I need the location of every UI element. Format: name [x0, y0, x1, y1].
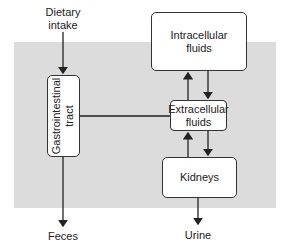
intake-label-line2: intake	[33, 19, 93, 32]
intracellular-line1: Intracellular	[171, 29, 228, 42]
gastrointestinal-tract-node: Gastrointestinal tract	[47, 75, 80, 157]
dietary-intake-label: Dietary intake	[33, 6, 93, 32]
kidneys-node: Kidneys	[162, 157, 237, 198]
intracellular-line2: fluids	[171, 42, 228, 55]
dietary-label-line1: Dietary	[33, 6, 93, 19]
urine-label: Urine	[173, 229, 223, 242]
extracellular-fluids-node: Extracellular fluids	[170, 100, 227, 131]
kidneys-text: Kidneys	[180, 171, 219, 184]
gi-line2: tract	[64, 78, 77, 154]
feces-label: Feces	[38, 230, 88, 243]
gi-tract-text: Gastrointestinal tract	[51, 78, 77, 154]
intracellular-fluids-node: Intracellular fluids	[151, 12, 247, 71]
gi-line1: Gastrointestinal	[51, 78, 64, 154]
extracellular-line2: fluids	[168, 116, 229, 129]
extracellular-line1: Extracellular	[168, 103, 229, 116]
